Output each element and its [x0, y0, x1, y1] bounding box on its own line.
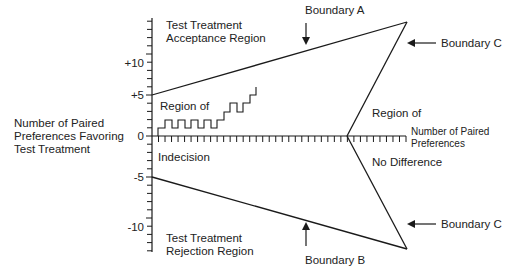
y-axis-title: Number of Paired Preferences Favoring Te…: [14, 117, 124, 156]
y-tick-label-0: 0: [114, 130, 144, 143]
y-axis-title-line-2: Preferences Favoring: [14, 130, 124, 143]
y-tick-label-plus10: +10: [114, 57, 144, 70]
no-difference-region-label-top: Region of: [372, 107, 421, 120]
boundary-b-arrow-icon: [302, 222, 310, 246]
acceptance-region-line-2: Acceptance Region: [166, 32, 266, 45]
boundary-c-top-arrow-icon: [407, 39, 436, 47]
y-axis-title-line-1: Number of Paired: [14, 117, 124, 130]
rejection-region-line-2: Rejection Region: [166, 245, 254, 258]
x-axis-title-line-1: Number of Paired: [411, 126, 489, 138]
boundary-c-top-label: Boundary C: [441, 37, 502, 50]
indecision-region-label-top: Region of: [160, 100, 209, 113]
rejection-region-label: Test Treatment Rejection Region: [166, 232, 254, 258]
acceptance-region-label: Test Treatment Acceptance Region: [166, 19, 266, 45]
acceptance-region-line-1: Test Treatment: [166, 19, 266, 32]
x-axis-title: Number of Paired Preferences: [411, 126, 489, 150]
boundary-b-label: Boundary B: [305, 254, 365, 267]
x-axis-ticks: [159, 136, 406, 142]
boundary-c-bottom-line: [347, 136, 407, 249]
boundary-a-label: Boundary A: [305, 4, 364, 17]
indecision-region-label-bottom: Indecision: [158, 151, 210, 164]
y-tick-label-minus5: -5: [114, 171, 144, 184]
y-tick-label-minus10: -10: [114, 221, 144, 234]
sequential-test-diagram: Number of Paired Preferences Favoring Te…: [0, 0, 517, 271]
y-axis-title-line-3: Test Treatment: [14, 143, 124, 156]
boundary-c-bottom-arrow-icon: [407, 220, 436, 228]
x-axis-title-line-2: Preferences: [411, 138, 489, 150]
no-difference-region-label-bottom: No Difference: [372, 156, 442, 169]
y-tick-label-plus5: +5: [114, 89, 144, 102]
boundary-c-bottom-label: Boundary C: [441, 218, 502, 231]
boundary-a-arrow-icon: [302, 23, 310, 45]
y-axis-ticks: [146, 21, 152, 251]
rejection-region-line-1: Test Treatment: [166, 232, 254, 245]
